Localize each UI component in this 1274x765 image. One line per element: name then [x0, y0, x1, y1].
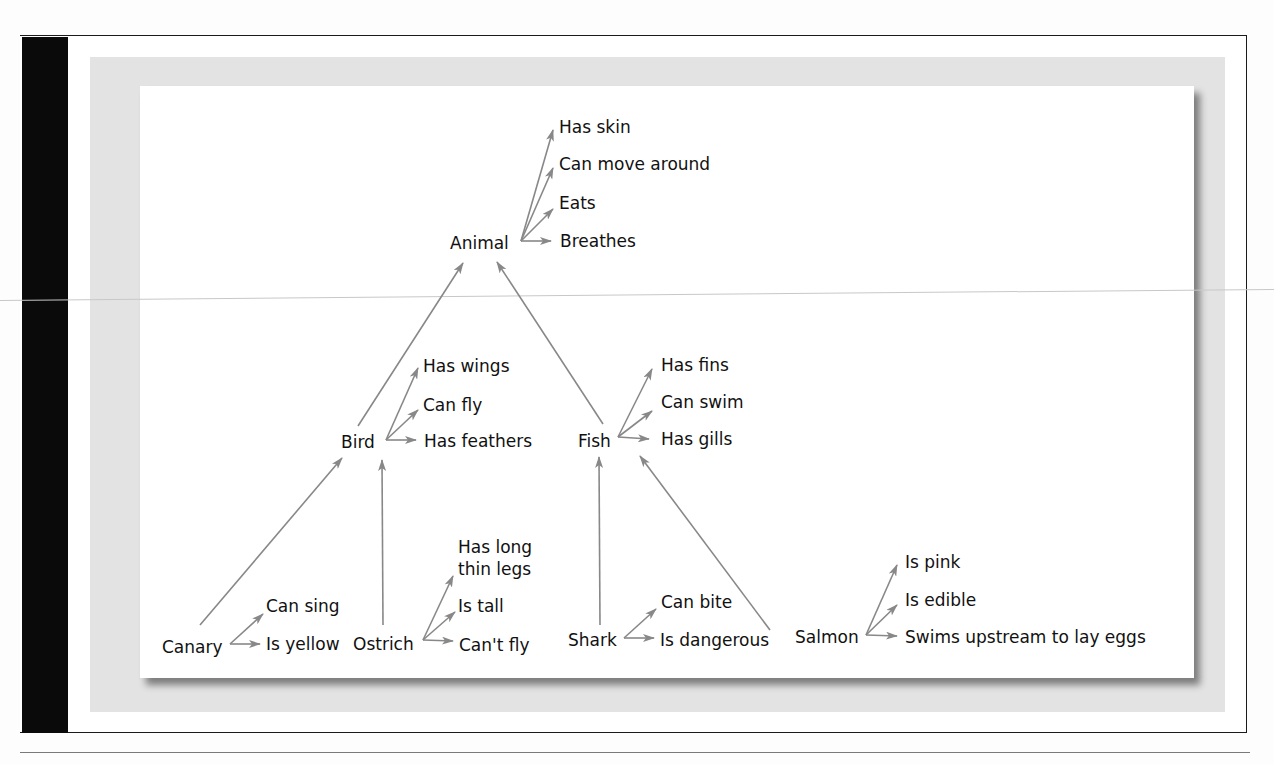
edge-ostrich-is-tall — [423, 612, 455, 640]
property-has-feathers: Has feathers — [424, 431, 532, 451]
edge-fish-animal — [497, 262, 603, 424]
edge-ostrich-cant-fly — [423, 640, 453, 641]
edge-shark-can-bite — [624, 609, 656, 638]
edge-ostrich-long-legs — [423, 576, 453, 640]
node-bird: Bird — [341, 432, 375, 452]
edge-fish-has-fins — [618, 369, 652, 437]
node-salmon: Salmon — [795, 627, 859, 647]
node-shark: Shark — [568, 630, 617, 650]
property-can-bite: Can bite — [661, 592, 732, 612]
edge-salmon-swims-upstream — [866, 635, 897, 636]
property-has-long: Has long — [458, 537, 532, 557]
property-is-edible: Is edible — [905, 590, 976, 610]
edges — [200, 130, 897, 644]
node-fish: Fish — [578, 431, 611, 451]
edge-animal-can-move — [521, 168, 553, 241]
property-has-gills: Has gills — [661, 429, 732, 449]
node-ostrich: Ostrich — [353, 634, 414, 654]
edge-bird-has-wings — [386, 368, 418, 440]
edge-fish-has-gills — [618, 437, 649, 439]
property-thin-legs: thin legs — [458, 559, 531, 579]
node-canary: Canary — [162, 637, 223, 657]
edge-bird-can-fly — [386, 410, 418, 440]
edge-salmon-is-pink — [866, 565, 897, 635]
property-is-dangerous: Is dangerous — [660, 630, 769, 650]
property-has-skin: Has skin — [559, 117, 631, 137]
property-has-fins: Has fins — [661, 355, 729, 375]
edge-ostrich-bird — [382, 460, 383, 625]
property-is-yellow: Is yellow — [266, 634, 340, 654]
property-can-sing: Can sing — [266, 596, 340, 616]
property-is-pink: Is pink — [905, 552, 961, 572]
property-can-fly: Can fly — [423, 395, 482, 415]
property-is-tall: Is tall — [458, 596, 504, 616]
property-swims-upstream: Swims upstream to lay eggs — [905, 627, 1146, 647]
property-cant-fly: Can't fly — [459, 635, 530, 655]
edge-shark-fish — [599, 457, 600, 625]
property-breathes: Breathes — [560, 231, 636, 251]
property-can-move-around: Can move around — [559, 154, 710, 174]
property-can-swim: Can swim — [661, 392, 744, 412]
edge-canary-can-sing — [230, 614, 263, 644]
edge-fish-can-swim — [618, 411, 652, 437]
property-has-wings: Has wings — [423, 356, 510, 376]
semantic-network-diagram: Animal Bird Fish Canary Ostrich Shark Sa… — [0, 0, 1274, 765]
node-animal: Animal — [450, 233, 509, 253]
edge-salmon-is-edible — [866, 605, 897, 635]
property-eats: Eats — [559, 193, 596, 213]
